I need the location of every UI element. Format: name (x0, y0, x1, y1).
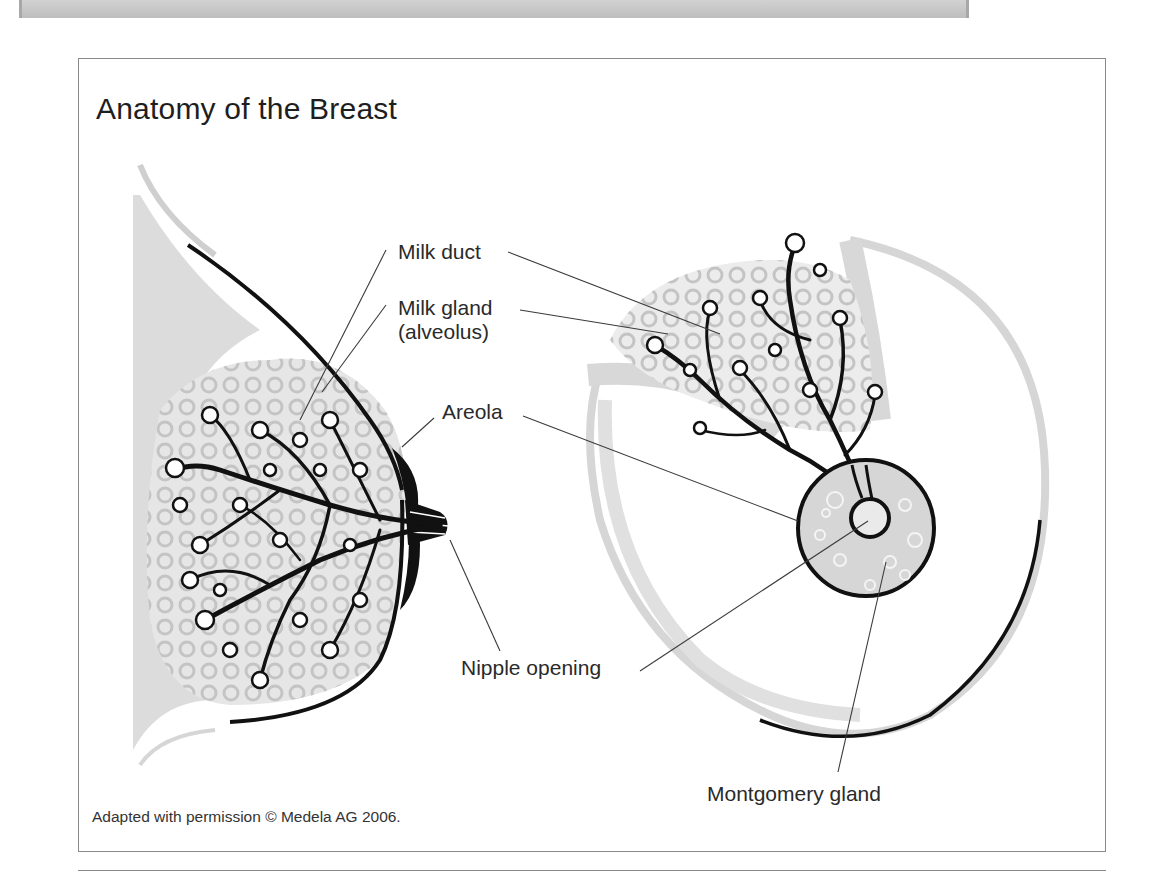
label-alveolus: (alveolus) (398, 320, 489, 344)
label-milk-gland: Milk gland (398, 296, 493, 320)
label-milk-duct: Milk duct (398, 240, 481, 264)
breast-anatomy-illustration (0, 0, 1151, 890)
label-nipple-opening: Nipple opening (461, 656, 601, 680)
page-bottom-rule (78, 870, 1106, 871)
label-montgomery-gland: Montgomery gland (707, 782, 881, 806)
label-areola: Areola (442, 400, 503, 424)
figure-credit: Adapted with permission © Medela AG 2006… (92, 808, 401, 826)
